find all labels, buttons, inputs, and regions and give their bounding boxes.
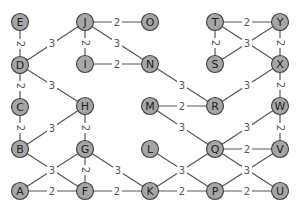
node-J: J (77, 14, 94, 31)
node-label: W (275, 100, 286, 113)
node-label: I (83, 58, 86, 71)
node-label: J (82, 16, 86, 29)
svg-text:2: 2 (210, 40, 221, 46)
svg-text:3: 3 (49, 38, 55, 49)
node-label: H (81, 100, 89, 113)
node-label: K (146, 185, 154, 198)
node-G: G (77, 141, 94, 158)
edge-weight-N-R: 3 (177, 79, 187, 91)
svg-text:2: 2 (275, 40, 286, 46)
svg-text:2: 2 (80, 40, 91, 46)
svg-text:3: 3 (244, 122, 250, 133)
svg-text:3: 3 (179, 80, 185, 91)
node-label: L (147, 143, 154, 156)
node-C: C (12, 99, 29, 116)
node-label: S (212, 58, 219, 71)
svg-text:2: 2 (114, 17, 120, 28)
edge-weight-I-N: 2 (112, 58, 122, 70)
svg-text:3: 3 (49, 80, 55, 91)
svg-text:3: 3 (179, 122, 185, 133)
edge-weight-D-J: 3 (47, 37, 57, 49)
svg-text:3: 3 (115, 165, 121, 176)
node-label: T (211, 16, 219, 29)
edge-weight-B-H: 3 (47, 122, 57, 134)
edge-weight-Q-U: 3 (242, 164, 252, 176)
svg-text:2: 2 (244, 17, 250, 28)
node-label: A (16, 185, 24, 198)
svg-text:3: 3 (244, 80, 250, 91)
node-O: O (142, 14, 159, 31)
svg-text:2: 2 (275, 125, 286, 131)
node-D: D (12, 57, 29, 74)
edge-weight-T-S: 2 (209, 38, 221, 48)
edge-weight-X-W: 2 (274, 80, 286, 90)
node-T: T (207, 14, 224, 31)
edge-weight-P-U: 2 (242, 185, 252, 197)
node-label: Q (211, 143, 220, 156)
edge-weight-T-Y: 2 (242, 16, 252, 28)
svg-text:3: 3 (114, 38, 120, 49)
node-N: N (142, 56, 159, 73)
node-label: V (276, 143, 284, 156)
svg-text:2: 2 (244, 144, 250, 155)
node-label: M (145, 100, 155, 113)
edge-weight-G-F: 2 (79, 165, 91, 175)
node-X: X (272, 56, 289, 73)
edge-weight-J-N: 3 (112, 37, 122, 49)
node-R: R (207, 98, 224, 115)
svg-text:2: 2 (15, 41, 26, 47)
node-U: U (272, 183, 289, 200)
node-label: U (276, 185, 284, 198)
edge-weight-M-R: 2 (177, 100, 187, 112)
node-L: L (142, 141, 159, 158)
node-label: G (81, 143, 90, 156)
node-M: M (142, 98, 159, 115)
node-label: N (146, 58, 154, 71)
node-Y: Y (272, 14, 289, 31)
node-label: E (17, 16, 24, 29)
edge-weight-F-K: 2 (112, 185, 122, 197)
svg-text:2: 2 (80, 167, 91, 173)
graph-diagram: 22233223232322323233222323232232 EDCBAJI… (0, 0, 302, 213)
svg-text:2: 2 (49, 186, 55, 197)
edge-weight-A-F: 2 (47, 185, 57, 197)
edge-weight-G-K: 3 (113, 164, 123, 176)
node-H: H (77, 98, 94, 115)
edge-weight-C-B: 2 (14, 123, 26, 133)
svg-text:2: 2 (114, 186, 120, 197)
edge-weight-J-I: 2 (79, 38, 91, 48)
node-S: S (207, 56, 224, 73)
edge-weight-H-G: 2 (79, 123, 91, 133)
node-label: D (16, 59, 24, 72)
edge-weight-R-X: 3 (242, 79, 252, 91)
svg-text:3: 3 (244, 165, 250, 176)
svg-text:2: 2 (179, 186, 185, 197)
svg-text:2: 2 (244, 186, 250, 197)
svg-text:3: 3 (244, 38, 250, 49)
edge-weight-W-V: 2 (274, 123, 286, 133)
node-B: B (12, 141, 29, 158)
node-label: P (212, 185, 219, 198)
svg-text:2: 2 (80, 125, 91, 131)
node-P: P (207, 183, 224, 200)
svg-text:3: 3 (49, 123, 55, 134)
edge-weight-D-C: 2 (14, 81, 26, 91)
svg-text:2: 2 (179, 101, 185, 112)
node-label: O (146, 16, 155, 29)
edge-weight-K-P: 2 (177, 185, 187, 197)
svg-text:2: 2 (15, 83, 26, 89)
node-label: Y (276, 16, 284, 29)
edge-weight-T-X: 3 (242, 37, 252, 49)
node-label: C (16, 101, 24, 114)
edge-weight-L-P: 3 (177, 164, 187, 176)
svg-text:3: 3 (179, 165, 185, 176)
node-label: F (82, 185, 88, 198)
edge-weight-E-D: 2 (14, 39, 26, 49)
edge-weight-Q-V: 2 (242, 143, 252, 155)
svg-text:2: 2 (275, 82, 286, 88)
node-F: F (77, 183, 94, 200)
node-I: I (77, 56, 94, 73)
edge-weight-Y-X: 2 (274, 38, 286, 48)
node-W: W (272, 98, 289, 115)
node-A: A (12, 183, 29, 200)
